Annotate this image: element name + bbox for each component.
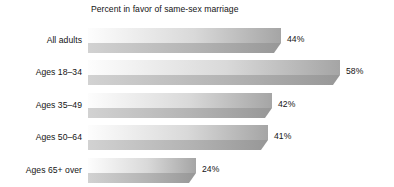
bar — [88, 28, 281, 53]
category-label: Ages 18–34 — [0, 67, 82, 77]
bar-row: Ages 50–6441% — [0, 123, 394, 155]
bar-chart: Percent in favor of same-sex marriage Al… — [0, 0, 394, 187]
bar-shape — [88, 28, 283, 55]
bar — [88, 60, 340, 85]
plot-area: All adults44%Ages 18–3458%Ages 35–4942%A… — [0, 24, 394, 187]
value-label: 42% — [278, 99, 295, 109]
value-label: 24% — [202, 164, 219, 174]
bar-row: Ages 35–4942% — [0, 91, 394, 123]
bar-front-face — [88, 140, 268, 150]
value-label: 44% — [287, 34, 304, 44]
bar — [88, 93, 272, 118]
bar-shape — [88, 93, 274, 120]
bar-row: All adults44% — [0, 26, 394, 58]
bar-top-face — [88, 158, 196, 173]
value-label: 58% — [346, 66, 363, 76]
bar-row: Ages 18–3458% — [0, 58, 394, 90]
category-label: All adults — [0, 35, 82, 45]
bar-front-face — [88, 108, 272, 118]
bar-shape — [88, 60, 342, 87]
bar — [88, 158, 196, 183]
bar-row: Ages 65+ over24% — [0, 156, 394, 187]
bar-shape — [88, 158, 198, 185]
bar-top-face — [88, 125, 268, 140]
bar-top-face — [88, 28, 281, 43]
bar-front-face — [88, 43, 281, 53]
category-label: Ages 65+ over — [0, 165, 82, 175]
bar-front-face — [88, 173, 196, 183]
value-label: 41% — [274, 131, 291, 141]
category-label: Ages 35–49 — [0, 100, 82, 110]
bar-front-face — [88, 75, 340, 85]
bar-shape — [88, 125, 270, 152]
bar-top-face — [88, 60, 340, 75]
category-label: Ages 50–64 — [0, 132, 82, 142]
bar-top-face — [88, 93, 272, 108]
bar — [88, 125, 268, 150]
chart-title: Percent in favor of same-sex marriage — [91, 4, 239, 14]
